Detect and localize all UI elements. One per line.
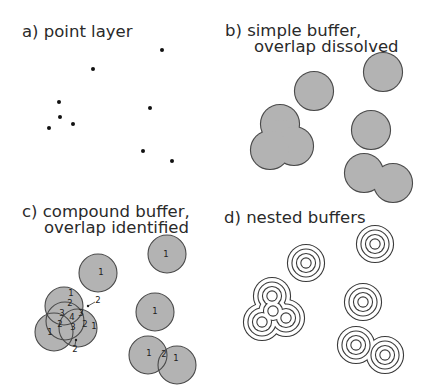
overlap-count-label: 3 [59, 308, 64, 318]
point-feature [148, 106, 152, 110]
nested-buffer-ring [370, 239, 379, 248]
overlap-count-label: 2 [95, 295, 100, 305]
dissolved-buffer [295, 72, 333, 110]
nested-buffer-ring [281, 313, 290, 322]
panel-d-title: d) nested buffers [224, 208, 366, 227]
nested-buffer-ring [301, 258, 310, 267]
dissolved-buffer [374, 164, 412, 202]
nested-buffer-ring [268, 306, 277, 315]
dissolved-buffer [251, 131, 289, 169]
overlap-count-label: 3 [78, 308, 83, 318]
panel-d-nested-buffers [244, 226, 403, 373]
overlap-count-label: 4 [69, 312, 74, 322]
overlap-count-label: 1 [47, 327, 52, 337]
overlap-count-label: 2 [161, 349, 166, 359]
overlap-count-label: 1 [163, 249, 168, 259]
nested-buffer-ring [257, 317, 266, 326]
nested-buffer-ring [351, 340, 360, 349]
overlap-count-label: 1 [152, 306, 157, 316]
point-feature [141, 149, 145, 153]
nested-buffer-ring [380, 350, 389, 359]
point-feature [57, 100, 61, 104]
point-feature [160, 48, 164, 52]
point-feature [170, 159, 174, 163]
dissolved-buffer [352, 111, 390, 149]
panel-b-simple-buffer [251, 53, 412, 202]
overlap-count-label: 3 [70, 322, 75, 332]
panel-a-point-layer [47, 48, 174, 163]
nested-buffer-ring [267, 291, 276, 300]
buffer-diagram: a) point layer b) simple buffer, overlap… [0, 0, 428, 392]
panel-a-title: a) point layer [22, 22, 133, 41]
nested-buffer-ring [358, 297, 367, 306]
point-feature [58, 115, 62, 119]
overlap-count-label: 1 [91, 321, 96, 331]
overlap-count-label: 1 [68, 288, 73, 298]
overlap-count-label: 1 [146, 348, 151, 358]
overlap-count-label: 2 [57, 319, 62, 329]
overlap-count-label: 1 [98, 267, 103, 277]
overlap-count-label: 1 [173, 353, 178, 363]
point-feature [91, 67, 95, 71]
overlap-count-label: 2 [72, 344, 77, 354]
overlap-count-label: 2 [82, 319, 87, 329]
point-feature [47, 126, 51, 130]
dissolved-buffer [364, 53, 402, 91]
overlap-count-label: 2 [67, 298, 72, 308]
point-feature [71, 122, 75, 126]
panel-c-title-line2: overlap identified [44, 218, 189, 237]
